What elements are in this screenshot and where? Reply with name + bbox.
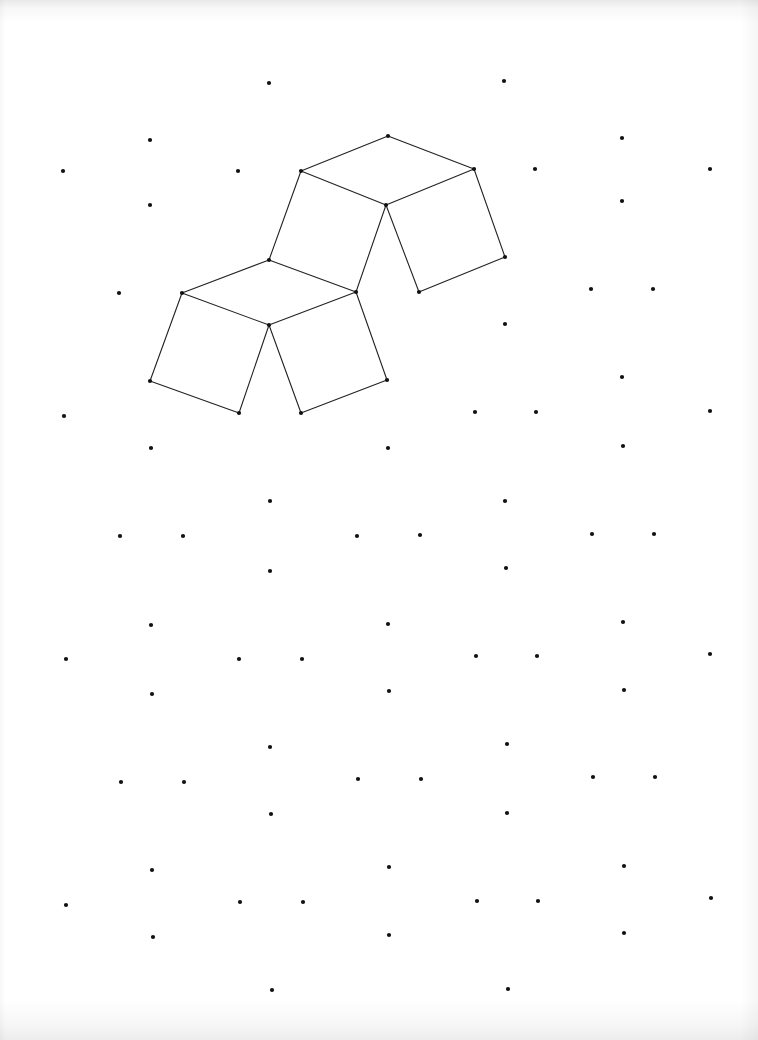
isometric-drawing-canvas <box>0 0 758 1040</box>
grid-dot <box>150 868 154 872</box>
grid-dot <box>503 499 507 503</box>
grid-dot <box>590 532 594 536</box>
grid-dot <box>620 136 624 140</box>
grid-dot <box>504 566 508 570</box>
grid-dot <box>533 167 537 171</box>
figure-edge <box>239 325 269 413</box>
figure-edge <box>301 380 387 413</box>
grid-dot <box>536 899 540 903</box>
grid-dot <box>475 899 479 903</box>
grid-dot <box>64 657 68 661</box>
grid-dot <box>621 444 625 448</box>
grid-dot <box>354 290 358 294</box>
figure-edge <box>182 260 269 293</box>
grid-dot <box>387 865 391 869</box>
grid-dot <box>622 688 626 692</box>
grid-dot <box>534 410 538 414</box>
grid-dot <box>180 291 184 295</box>
grid-dot <box>386 134 390 138</box>
grid-dot <box>652 532 656 536</box>
grid-dot <box>591 775 595 779</box>
grid-dot <box>505 742 509 746</box>
figure-edge <box>301 136 388 171</box>
figure-edge <box>386 205 419 292</box>
grid-dot <box>386 622 390 626</box>
grid-dot <box>387 689 391 693</box>
grid-dot <box>355 534 359 538</box>
grid-dot <box>622 864 626 868</box>
grid-dot <box>148 379 152 383</box>
grid-dot <box>506 987 510 991</box>
grid-dot <box>150 692 154 696</box>
grid-dot <box>708 652 712 656</box>
dot-grid <box>61 79 713 992</box>
grid-dot <box>149 446 153 450</box>
grid-dot <box>267 258 271 262</box>
grid-dot <box>237 657 241 661</box>
grid-dot <box>589 287 593 291</box>
grid-dot <box>148 203 152 207</box>
grid-dot <box>502 79 506 83</box>
grid-dot <box>148 138 152 142</box>
figure-edge <box>269 325 301 413</box>
figure-edge <box>150 293 182 381</box>
figure-edge <box>386 169 474 205</box>
grid-dot <box>269 812 273 816</box>
grid-dot <box>505 811 509 815</box>
grid-dot <box>267 323 271 327</box>
figure-edge <box>269 171 301 260</box>
grid-dot <box>622 931 626 935</box>
grid-dot <box>709 896 713 900</box>
grid-dot <box>300 657 304 661</box>
grid-dot <box>503 255 507 259</box>
grid-dot <box>182 780 186 784</box>
grid-dot <box>472 167 476 171</box>
grid-dot <box>386 446 390 450</box>
grid-dot <box>117 291 121 295</box>
figure-edges <box>150 136 505 413</box>
figure-edge <box>356 292 387 380</box>
figure-edge <box>419 257 505 292</box>
grid-dot <box>387 933 391 937</box>
figure-edge <box>150 381 239 413</box>
grid-dot <box>503 322 507 326</box>
grid-dot <box>653 775 657 779</box>
grid-dot <box>62 414 66 418</box>
figure-edge <box>356 205 386 292</box>
grid-dot <box>651 287 655 291</box>
grid-dot <box>268 569 272 573</box>
grid-dot <box>384 203 388 207</box>
grid-dot <box>268 745 272 749</box>
grid-dot <box>474 654 478 658</box>
grid-dot <box>621 620 625 624</box>
grid-dot <box>708 409 712 413</box>
figure-edge <box>301 171 386 205</box>
grid-dot <box>385 378 389 382</box>
grid-dot <box>238 900 242 904</box>
grid-dot <box>535 654 539 658</box>
figure-edge <box>388 136 474 169</box>
grid-dot <box>236 169 240 173</box>
grid-dot <box>419 777 423 781</box>
grid-dot <box>299 411 303 415</box>
figure-edge <box>182 293 269 325</box>
grid-dot <box>181 534 185 538</box>
dot-paper-sheet <box>0 0 758 1040</box>
grid-dot <box>301 900 305 904</box>
grid-dot <box>237 411 241 415</box>
grid-dot <box>356 777 360 781</box>
grid-dot <box>64 903 68 907</box>
grid-dot <box>417 290 421 294</box>
grid-dot <box>267 81 271 85</box>
grid-dot <box>118 534 122 538</box>
grid-dot <box>418 533 422 537</box>
grid-dot <box>268 499 272 503</box>
grid-dot <box>119 780 123 784</box>
figure-edge <box>269 260 356 292</box>
grid-dot <box>61 169 65 173</box>
grid-dot <box>620 375 624 379</box>
grid-dot <box>270 988 274 992</box>
figure-edge <box>474 169 505 257</box>
grid-dot <box>149 623 153 627</box>
grid-dot <box>299 169 303 173</box>
